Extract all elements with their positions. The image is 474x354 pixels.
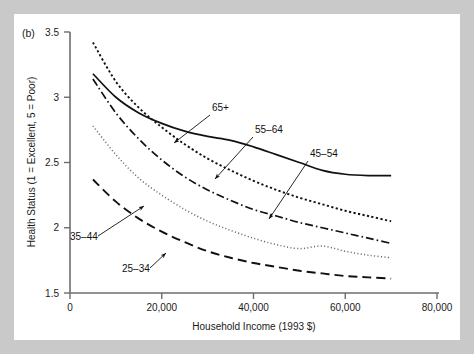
y-tick-label: 3 <box>53 92 59 103</box>
y-tick-label: 1.5 <box>45 288 59 299</box>
chart-background <box>14 14 460 340</box>
health-status-income-chart: (b) 1.522.533.5 Health Status (1 = Excel… <box>14 14 460 340</box>
x-tick-label: 80,000 <box>422 302 453 313</box>
x-tick-label: 40,000 <box>238 302 269 313</box>
series-label-lbl-25-34: 25–34 <box>122 263 150 274</box>
series-label-lbl-55-64: 55–64 <box>255 124 283 135</box>
x-tick-label: 0 <box>67 302 73 313</box>
y-tick-label: 2.5 <box>45 157 59 168</box>
series-label-lbl-35-44: 35–44 <box>70 231 98 242</box>
series-label-lbl-65plus: 65+ <box>212 102 229 113</box>
y-tick-label: 3.5 <box>45 27 59 38</box>
x-axis-title: Household Income (1993 $) <box>192 321 315 332</box>
panel-label: (b) <box>22 27 35 39</box>
x-tick-label: 20,000 <box>146 302 177 313</box>
y-tick-label: 2 <box>53 222 59 233</box>
y-axis-title: Health Status (1 = Excellent, 5 = Poor) <box>26 77 37 248</box>
x-tick-label: 60,000 <box>330 302 361 313</box>
series-label-lbl-45-54: 45–54 <box>310 148 338 159</box>
figure-panel: (b) 1.522.533.5 Health Status (1 = Excel… <box>14 14 460 340</box>
